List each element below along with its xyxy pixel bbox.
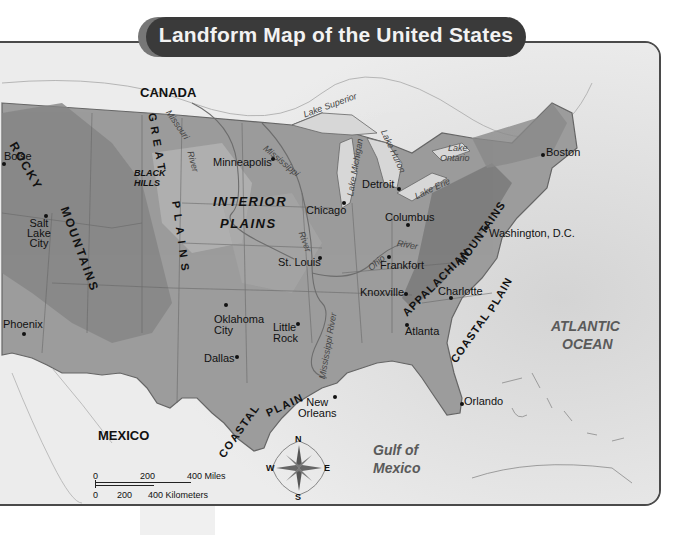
city-orlando: Orlando [464, 395, 503, 407]
map-title-banner: Landform Map of the United States [146, 17, 526, 57]
rock-label: Rock [273, 333, 298, 344]
compass-n: N [295, 433, 302, 445]
label-black-hills: BLACK HILLS [134, 168, 166, 188]
city-charlotte: Charlotte [438, 285, 483, 297]
city-dot-columbus [406, 223, 410, 227]
city-atlanta: Atlanta [405, 325, 439, 337]
label-atlantic: ATLANTIC [551, 318, 620, 334]
compass-rose: N S W E [268, 437, 330, 499]
city-dallas: Dallas [204, 352, 235, 364]
scale-miles-400: 400 Miles [187, 470, 226, 482]
scale-miles-200: 200 [140, 470, 155, 482]
label-lake-ontario-1: Lake [448, 143, 468, 153]
label-plains-interior: PLAINS [220, 218, 277, 230]
okc-city-label: City [214, 325, 264, 336]
city-washington-dc: Washington, D.C. [489, 227, 575, 239]
scale-bar: 0 200 400 Miles 0 200 400 Kilometers [93, 470, 223, 500]
page-margin [140, 506, 215, 535]
label-interior: INTERIOR [213, 196, 287, 208]
city-dot-oklahoma-city [224, 303, 228, 307]
city-boise: Boise [4, 150, 32, 162]
city-phoenix: Phoenix [3, 318, 43, 330]
map-title: Landform Map of the United States [146, 23, 526, 47]
compass-w: W [266, 462, 275, 474]
city-chicago: Chicago [306, 204, 346, 216]
city-dot-boston [541, 153, 545, 157]
city-little-rock: Little Rock [273, 322, 298, 344]
label-canada: CANADA [140, 87, 196, 99]
compass-s: S [295, 491, 301, 503]
city-dot-detroit [397, 187, 401, 191]
city-dot-washington-dc [484, 226, 488, 230]
label-mexico: MEXICO [98, 430, 149, 442]
city-detroit: Detroit [362, 178, 394, 190]
label-black: BLACK [134, 168, 166, 178]
city-st-louis: St. Louis [278, 256, 321, 268]
city-oklahoma-city: Oklahoma City [214, 314, 264, 336]
label-mexico-gulf: Mexico [373, 460, 420, 476]
city-dot-boise [2, 162, 6, 166]
city-salt-lake-city: Salt Lake City [27, 218, 51, 248]
compass-icon [268, 437, 330, 499]
scale-km-0: 0 [93, 489, 98, 501]
city-dot-phoenix [22, 332, 26, 336]
orleans-label: Orleans [298, 408, 337, 419]
label-ocean: OCEAN [562, 336, 613, 352]
label-hills: HILLS [134, 178, 166, 188]
scale-line-miles [95, 482, 191, 483]
scale-line-km [95, 485, 154, 486]
scale-km-400: 400 Kilometers [148, 489, 208, 501]
city-new-orleans: New Orleans [298, 397, 337, 419]
city-label: City [27, 238, 51, 248]
city-columbus: Columbus [385, 211, 435, 223]
label-lake-ontario-2: Ontario [440, 153, 470, 163]
label-gulf-of: Gulf of [373, 442, 418, 458]
city-knoxville: Knoxville [360, 286, 404, 298]
city-minneapolis: Minneapolis [213, 156, 272, 168]
city-boston: Boston [546, 146, 580, 158]
city-dot-dallas [235, 355, 239, 359]
compass-e: E [324, 462, 330, 474]
scale-tick [95, 480, 96, 488]
city-dot-knoxville [404, 292, 408, 296]
city-frankfort: Frankfort [380, 259, 424, 271]
scale-km-200: 200 [117, 489, 132, 501]
